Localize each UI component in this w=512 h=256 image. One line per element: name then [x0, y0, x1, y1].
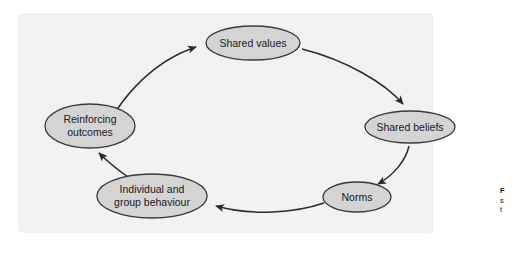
- node-label-shared-beliefs: Shared beliefs: [376, 121, 443, 133]
- node-label-norms: Norms: [342, 191, 373, 203]
- node-reinforcing-outcomes[interactable]: Reinforcing outcomes: [45, 104, 135, 148]
- node-individual-and-group-behaviour[interactable]: Individual and group behaviour: [97, 174, 207, 218]
- node-shared-values[interactable]: Shared values: [206, 26, 300, 60]
- figure-canvas: Shared values Shared beliefs Norms Indiv…: [0, 0, 512, 256]
- caption-line-1: F: [500, 186, 512, 196]
- node-label-shared-values: Shared values: [219, 37, 286, 49]
- node-shared-beliefs[interactable]: Shared beliefs: [365, 111, 455, 143]
- cycle-diagram: Shared values Shared beliefs Norms Indiv…: [0, 0, 512, 256]
- caption-line-3: t: [500, 205, 512, 215]
- edge-behaviour-to-reinforcing: [99, 153, 128, 177]
- diagram-nodes: Shared values Shared beliefs Norms Indiv…: [45, 26, 455, 218]
- edge-values-to-beliefs: [302, 49, 403, 104]
- edge-norms-to-behaviour: [216, 203, 324, 212]
- node-norms[interactable]: Norms: [323, 182, 391, 212]
- figure-caption-fragment: F s t: [500, 186, 512, 215]
- node-label-reinforcing-outcomes-line1: Reinforcing: [63, 113, 116, 125]
- caption-line-2: s: [500, 196, 512, 206]
- node-label-individual-and-group-behaviour-line1: Individual and: [120, 183, 185, 195]
- edge-beliefs-to-norms: [378, 146, 409, 184]
- node-label-reinforcing-outcomes-line2: outcomes: [67, 126, 113, 138]
- node-label-individual-and-group-behaviour-line2: group behaviour: [114, 196, 190, 208]
